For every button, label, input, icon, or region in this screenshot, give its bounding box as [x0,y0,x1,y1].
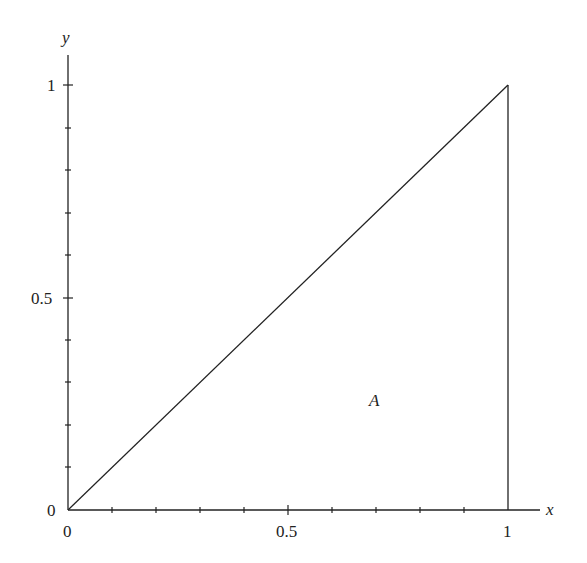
region-label-a: A [368,391,380,410]
y-tick-label-0.5: 0.5 [31,289,52,308]
x-tick-label-0.5: 0.5 [276,522,297,541]
y-tick-label-0: 0 [47,501,56,520]
y-axis-label: y [60,28,70,47]
y-tick-label-1: 1 [47,76,56,95]
x-axis-label: x [545,500,554,519]
diagonal-line [68,85,508,510]
x-tick-label-0: 0 [63,522,72,541]
diagram-canvas: y x 1 0.5 0 0 0.5 1 A [0,0,587,563]
x-tick-label-1: 1 [503,522,512,541]
